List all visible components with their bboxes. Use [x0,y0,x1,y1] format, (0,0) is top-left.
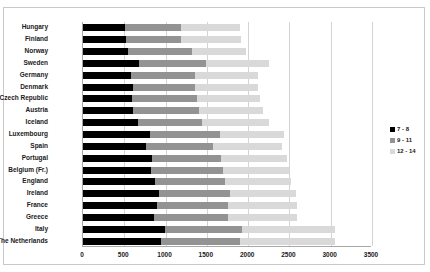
bar-rows [83,22,371,246]
bar-segment [83,238,161,245]
legend-label: 7 - 8 [397,126,409,133]
bar-row [83,167,289,174]
bar-row [83,214,297,221]
bar-segment [228,202,297,209]
bar-row [83,155,287,162]
bar-segment [139,60,206,67]
bar-segment [83,107,133,114]
bar-segment [157,202,228,209]
bar-segment [131,72,195,79]
bar-segment [83,143,146,150]
bar-segment [155,178,225,185]
bar-row [83,72,258,79]
bar-segment [83,36,126,43]
chart-frame: 0500100015002000250030003500 7 - 89 - 11… [3,7,425,265]
bar-row [83,60,269,67]
bar-segment [146,143,214,150]
bar-row [83,24,240,31]
legend-item: 9 - 11 [390,137,430,144]
bar-segment [132,95,197,102]
bar-segment [83,48,128,55]
bar-segment [152,155,221,162]
x-axis-tick-labels: 0500100015002000250030003500 [82,251,371,263]
bar-row [83,143,282,150]
bar-segment [220,131,285,138]
bar-segment [83,95,132,102]
x-tick-label: 0 [80,251,84,258]
bar-row [83,202,297,209]
bar-segment [83,72,131,79]
bar-row [83,238,335,245]
legend-swatch-icon [390,127,395,132]
bar-segment [83,202,157,209]
x-tick-label: 3500 [364,251,378,258]
plot-area [82,22,371,247]
legend-item: 12 - 14 [390,148,430,155]
bar-segment [83,60,139,67]
bar-row [83,131,284,138]
bar-segment [195,84,258,91]
bar-segment [213,143,282,150]
x-tick-label: 1000 [157,251,171,258]
chart-legend: 7 - 89 - 1112 - 14 [390,126,430,159]
bar-row [83,190,296,197]
bar-segment [242,226,334,233]
bar-row [83,226,335,233]
bar-segment [83,119,138,126]
bar-segment [195,72,258,79]
bar-segment [126,36,180,43]
bar-segment [150,131,220,138]
x-tick-label: 2500 [281,251,295,258]
bar-segment [83,24,125,31]
bar-segment [133,84,196,91]
bar-segment [125,24,181,31]
bar-segment [159,190,230,197]
x-tick-label: 3000 [322,251,336,258]
bar-segment [128,48,192,55]
bar-segment [181,24,240,31]
bar-segment [230,190,295,197]
bar-row [83,84,258,91]
bar-row [83,107,263,114]
bar-row [83,119,269,126]
bar-segment [83,155,152,162]
bar-segment [83,178,155,185]
bar-segment [240,238,335,245]
legend-item: 7 - 8 [390,126,430,133]
bar-segment [202,119,268,126]
bar-segment [181,36,241,43]
bar-row [83,178,291,185]
bar-row [83,48,246,55]
legend-swatch-icon [390,149,395,154]
bar-segment [83,190,159,197]
bar-row [83,95,260,102]
bar-segment [154,214,229,221]
legend-label: 9 - 11 [397,137,412,144]
bar-segment [133,107,199,114]
bar-segment [199,107,263,114]
bar-segment [228,214,297,221]
bar-segment [161,238,240,245]
bar-segment [192,48,247,55]
bar-row [83,36,241,43]
x-tick-label: 2000 [240,251,254,258]
x-tick-label: 500 [118,251,129,258]
bar-segment [225,178,291,185]
bar-segment [151,167,223,174]
bar-segment [165,226,243,233]
bar-segment [83,167,151,174]
bar-segment [83,131,150,138]
gridline [372,22,373,246]
x-tick-label: 1500 [199,251,213,258]
bar-segment [83,84,133,91]
legend-swatch-icon [390,138,395,143]
bar-segment [221,155,287,162]
bar-segment [206,60,269,67]
bar-segment [83,226,165,233]
legend-label: 12 - 14 [397,148,416,155]
bar-segment [138,119,202,126]
bar-segment [83,214,154,221]
bar-segment [223,167,289,174]
bar-segment [197,95,260,102]
